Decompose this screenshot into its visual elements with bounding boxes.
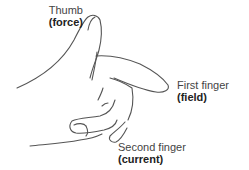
palm-crease (102, 103, 108, 106)
thumb-name: Thumb (43, 4, 83, 16)
thumb-label: Thumb (force) (43, 4, 83, 28)
first-finger-outline (96, 56, 168, 92)
folded-finger-nail (74, 124, 86, 126)
second-finger-label: Second finger (current) (118, 141, 186, 165)
second-finger-name: Second finger (118, 141, 186, 153)
second-finger-role: (current) (118, 153, 186, 165)
thumb-role: (force) (43, 16, 83, 28)
knuckle-line (98, 88, 103, 100)
folded-finger-crease (86, 126, 88, 136)
left-hand-rule-diagram: Thumb (force) First finger (field) Secon… (0, 0, 249, 170)
thumbnail (88, 17, 95, 30)
second-finger-outline (109, 122, 127, 142)
first-finger-role: (field) (177, 91, 229, 103)
first-finger-name: First finger (177, 79, 229, 91)
second-finger-upper (70, 100, 117, 133)
wrist-line (30, 134, 102, 146)
first-finger-label: First finger (field) (177, 79, 229, 103)
